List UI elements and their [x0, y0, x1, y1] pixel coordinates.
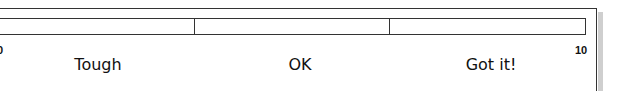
scale-min-label: 0	[0, 44, 3, 56]
scale-max-label: 10	[575, 44, 587, 56]
segment-label-tough: Tough	[74, 55, 121, 74]
card-shadow	[598, 12, 603, 91]
scale-segment-ok[interactable]	[194, 19, 390, 34]
rating-scale-bar[interactable]	[0, 18, 586, 35]
scale-segment-tough[interactable]	[0, 19, 194, 34]
segment-label-got-it: Got it!	[466, 55, 517, 74]
segment-label-ok: OK	[288, 55, 311, 74]
scale-segment-got-it[interactable]	[389, 19, 585, 34]
